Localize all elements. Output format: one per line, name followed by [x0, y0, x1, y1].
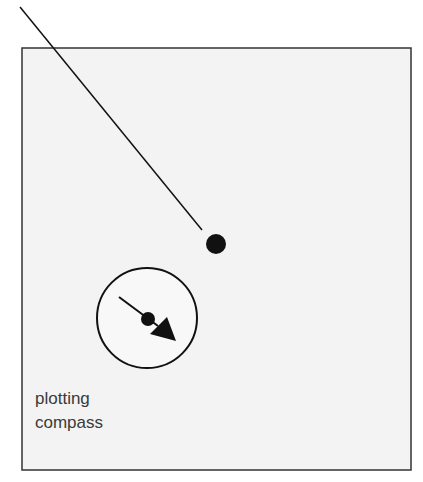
plotting-compass-icon: [97, 268, 197, 368]
magnet-pole-dot: [206, 234, 226, 254]
label-compass: compass: [35, 412, 103, 434]
label-plotting: plotting: [35, 388, 90, 410]
compass-pivot-icon: [141, 312, 155, 326]
